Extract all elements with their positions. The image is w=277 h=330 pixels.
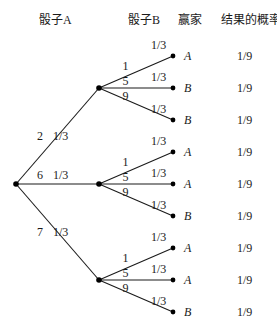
die-b-probability: 1/3 [151,39,166,51]
die-a-probability: 1/3 [53,130,68,142]
die-b-value: 5 [123,171,129,183]
die-a-node [96,277,102,283]
outcome-probability: 1/9 [237,210,252,222]
leaf-node [171,182,176,187]
die-b-probability: 1/3 [151,135,166,147]
root-node [13,181,19,187]
die-b-value: 5 [123,75,129,87]
leaf-node [171,54,176,59]
winner: A [184,178,191,190]
winner: A [184,50,191,62]
die-b-probability: 1/3 [151,199,166,211]
leaf-node [171,278,176,283]
leaf-node [171,214,176,219]
leaf-node [171,310,176,315]
die-b-value: 1 [123,252,129,264]
winner: A [184,146,191,158]
die-b-value: 1 [123,60,129,72]
winner: A [184,242,191,254]
outcome-probability: 1/9 [237,274,252,286]
die-a-value: 7 [37,226,43,238]
die-a-probability: 1/3 [53,169,68,181]
die-b-value: 9 [123,282,129,294]
outcome-probability: 1/9 [237,242,252,254]
winner: B [184,306,191,318]
die-a-node [96,85,102,91]
winner: B [184,114,191,126]
outcome-probability: 1/9 [237,82,252,94]
die-a-probability: 1/3 [53,226,68,238]
leaf-node [171,118,176,123]
outcome-probability: 1/9 [237,50,252,62]
die-a-node [96,181,102,187]
leaf-node [171,246,176,251]
die-b-value: 5 [123,267,129,279]
outcome-probability: 1/9 [237,114,252,126]
outcome-probability: 1/9 [237,146,252,158]
winner: B [184,82,191,94]
die-b-probability: 1/3 [151,263,166,275]
die-b-probability: 1/3 [151,231,166,243]
die-b-probability: 1/3 [151,71,166,83]
die-b-value: 9 [123,90,129,102]
leaf-node [171,86,176,91]
die-a-value: 6 [37,169,43,181]
leaf-node [171,150,176,155]
die-b-probability: 1/3 [151,295,166,307]
die-b-probability: 1/3 [151,103,166,115]
outcome-probability: 1/9 [237,178,252,190]
die-a-value: 2 [37,130,43,142]
probability-tree [0,0,277,330]
die-b-value: 1 [123,156,129,168]
winner: A [184,274,191,286]
die-b-probability: 1/3 [151,167,166,179]
winner: B [184,210,191,222]
die-b-value: 9 [123,186,129,198]
outcome-probability: 1/9 [237,306,252,318]
